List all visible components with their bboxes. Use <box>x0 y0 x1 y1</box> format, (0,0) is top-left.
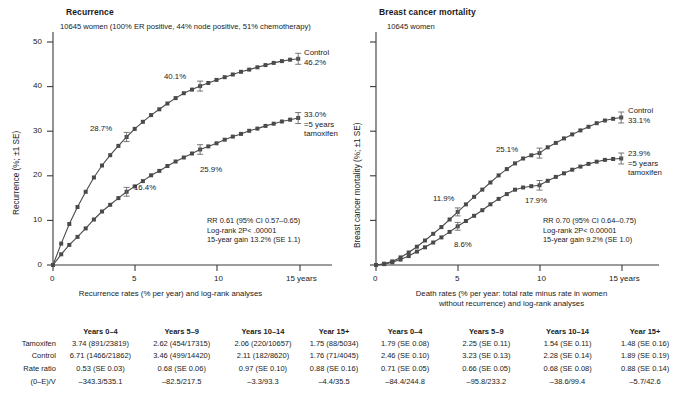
x-tick-label-0: 0 <box>373 274 377 283</box>
y-axis-ticks <box>47 42 53 265</box>
figure-root: Recurrence 10645 women (100% ER positive… <box>0 0 682 395</box>
cell-right-r3-c1: –95.8/233.2 <box>446 375 527 388</box>
cell-left-r1-c0: 6.71 (1466/21862) <box>60 350 141 363</box>
cell-left-r2-c2: 0.97 (SE 0.10) <box>222 362 303 375</box>
table-row: Control 6.71 (1466/21862) 3.46 (499/1442… <box>0 350 682 363</box>
cell-left-r0-c2: 2.06 (220/10657) <box>222 337 303 350</box>
y-tick-label-30: 30 <box>18 126 42 135</box>
table-header-row: Years 0–4 Years 5–9 Years 10–14 Year 15+… <box>0 322 682 337</box>
cell-left-r1-c1: 3.46 (499/14420) <box>141 350 222 363</box>
endpoint-tamoxifen-dur: =5 years <box>628 159 662 169</box>
endpoint-control-value: 33.1% <box>628 116 653 126</box>
cell-left-r3-c3: –4.4/35.5 <box>304 375 365 388</box>
cell-left-r1-c3: 1.76 (71/4045) <box>304 350 365 363</box>
annotation-control-10y: 25.1% <box>496 145 518 154</box>
cell-left-r0-c1: 2.62 (454/17315) <box>141 337 222 350</box>
panel-mortality: Breast cancer mortality 10645 women Brea… <box>341 0 682 318</box>
cell-right-r3-c3: –5.7/42.6 <box>608 375 682 388</box>
cell-right-r2-c3: 0.88 (SE 0.14) <box>608 362 682 375</box>
x-tick-label-10: 10 <box>537 274 546 283</box>
plot-area-recurrence <box>0 0 341 318</box>
x-axis-caption-mortality: Death rates (% per year: total rate minu… <box>341 289 682 309</box>
cell-right-r1-c1: 3.23 (SE 0.13) <box>446 350 527 363</box>
cell-right-r1-c2: 2.28 (SE 0.14) <box>527 350 608 363</box>
table-header-left-2: Years 10–14 <box>222 322 303 337</box>
x-caption-line2: without recurrence) and log-rank analyse… <box>341 299 682 309</box>
table-row: (0–E)/V –343.3/535.1 –82.5/217.5 –3.3/93… <box>0 375 682 388</box>
y-tick-label-10: 10 <box>18 215 42 224</box>
endpoint-tamoxifen-drug: tamoxifen <box>304 129 338 139</box>
cell-left-r1-c2: 2.11 (182/8620) <box>222 350 303 363</box>
cell-left-r0-c0: 3.74 (891/23819) <box>60 337 141 350</box>
cell-left-r2-c0: 0.53 (SE 0.03) <box>60 362 141 375</box>
x-tick-label-5: 5 <box>132 274 136 283</box>
cell-right-r0-c3: 1.48 (SE 0.16) <box>608 337 682 350</box>
x-tick-label-15: 15 years <box>609 274 640 283</box>
x-tick-label-15: 15 years <box>286 274 317 283</box>
x-tick-label-5: 5 <box>455 274 459 283</box>
x-axis-ticks <box>53 265 300 271</box>
annotation-tamoxifen-5y: 8.6% <box>454 240 472 249</box>
annotation-tamoxifen-10y: 17.9% <box>525 196 547 205</box>
table-header-right-1: Years 5–9 <box>446 322 527 337</box>
table-header-right-2: Years 10–14 <box>527 322 608 337</box>
cell-left-r3-c2: –3.3/93.3 <box>222 375 303 388</box>
annotation-control-5y: 11.9% <box>433 194 455 203</box>
endpoint-tamoxifen-drug: tamoxifen <box>628 168 662 178</box>
endpoint-label-control: Control 33.1% <box>628 106 653 125</box>
stats-logrank: Log-rank 2P< .00001 <box>207 226 300 236</box>
stats-gain: 15-year gain 13.2% (SE 1.1) <box>207 235 300 245</box>
cell-right-r0-c2: 1.54 (SE 0.11) <box>527 337 608 350</box>
annotation-control-5y: 28.7% <box>90 124 112 133</box>
cell-left-r3-c0: –343.3/535.1 <box>60 375 141 388</box>
table-row-label-tamoxifen: Tamoxifen <box>0 337 60 350</box>
cell-right-r1-c0: 2.46 (SE 0.10) <box>364 350 445 363</box>
endpoint-control-name: Control <box>628 106 653 116</box>
x-tick-label-0: 0 <box>50 274 54 283</box>
table-row: Tamoxifen 3.74 (891/23819) 2.62 (454/173… <box>0 337 682 350</box>
stats-block-mortality: RR 0.70 (95% CI 0.64–0.75) Log-rank 2P< … <box>543 216 636 245</box>
annotation-control-10y: 40.1% <box>164 72 186 81</box>
cell-left-r2-c1: 0.68 (SE 0.06) <box>141 362 222 375</box>
endpoint-label-control: Control 46.2% <box>304 48 329 67</box>
x-tick-label-10: 10 <box>214 274 223 283</box>
stats-gain: 15-year gain 9.2% (SE 1.0) <box>543 235 636 245</box>
table-header-left-0: Years 0–4 <box>60 322 141 337</box>
stats-block-recurrence: RR 0.61 (95% CI 0.57–0.65) Log-rank 2P< … <box>207 216 300 245</box>
y-tick-label-20: 20 <box>18 170 42 179</box>
endpoint-label-tamoxifen: 33.0% =5 years tamoxifen <box>304 110 338 139</box>
table-row-label-rate-ratio: Rate ratio <box>0 362 60 375</box>
x-caption-line1: Death rates (% per year: total rate minu… <box>341 289 682 299</box>
y-tick-label-0: 0 <box>18 260 42 269</box>
table-row-label-oev: (0–E)/V <box>0 375 60 388</box>
error-bars-control-recurrence <box>124 53 302 141</box>
stats-rr: RR 0.70 (95% CI 0.64–0.75) <box>543 216 636 226</box>
cell-right-r2-c2: 0.68 (SE 0.08) <box>527 362 608 375</box>
endpoint-tamoxifen-value: 23.9% <box>628 149 662 159</box>
y-tick-label-40: 40 <box>18 81 42 90</box>
x-axis-ticks <box>376 265 622 271</box>
cell-right-r0-c1: 2.25 (SE 0.11) <box>446 337 527 350</box>
table-row: Rate ratio 0.53 (SE 0.03) 0.68 (SE 0.06)… <box>0 362 682 375</box>
table-corner-cell <box>0 322 60 337</box>
table-header-right-3: Year 15+ <box>608 322 682 337</box>
cell-right-r1-c3: 1.89 (SE 0.19) <box>608 350 682 363</box>
endpoint-tamoxifen-value: 33.0% <box>304 110 338 120</box>
stats-rr: RR 0.61 (95% CI 0.57–0.65) <box>207 216 300 226</box>
table-header-left-3: Year 15+ <box>304 322 365 337</box>
y-axis-ticks <box>370 42 376 265</box>
endpoint-label-tamoxifen: 23.9% =5 years tamoxifen <box>628 149 662 178</box>
cell-left-r3-c1: –82.5/217.5 <box>141 375 222 388</box>
cell-left-r0-c3: 1.75 (88/5034) <box>304 337 365 350</box>
stats-logrank: Log-rank 2P< 0.00001 <box>543 226 636 236</box>
table-row-label-control: Control <box>0 350 60 363</box>
cell-right-r3-c2: –38.6/99.4 <box>527 375 608 388</box>
cell-right-r0-c0: 1.79 (SE 0.08) <box>364 337 445 350</box>
cell-right-r2-c1: 0.66 (SE 0.05) <box>446 362 527 375</box>
table-header-left-1: Years 5–9 <box>141 322 222 337</box>
panel-recurrence: Recurrence 10645 women (100% ER positive… <box>0 0 341 318</box>
annotation-tamoxifen-10y: 25.9% <box>200 165 222 174</box>
cell-right-r2-c0: 0.71 (SE 0.05) <box>364 362 445 375</box>
data-table: Years 0–4 Years 5–9 Years 10–14 Year 15+… <box>0 322 682 387</box>
x-axis-caption-recurrence: Recurrence rates (% per year) and log-ra… <box>0 289 341 299</box>
